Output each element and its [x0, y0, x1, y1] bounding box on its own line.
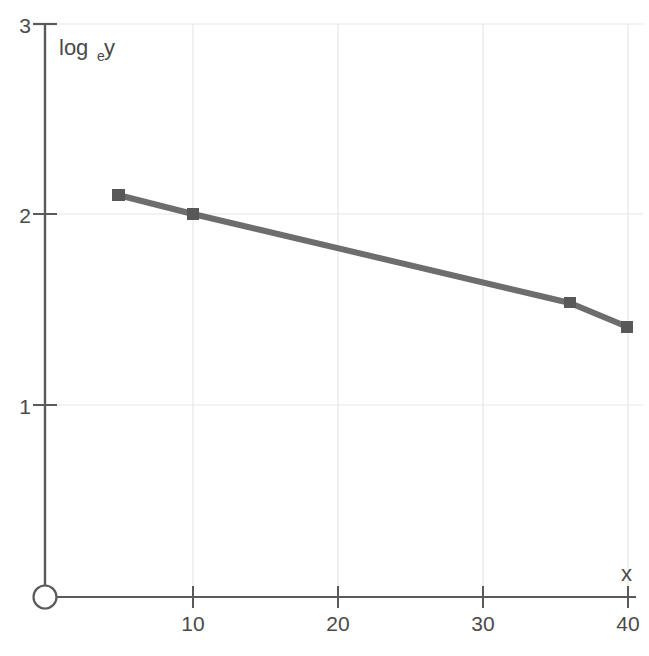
- data-point-marker: [112, 189, 125, 201]
- data-point-marker: [187, 208, 199, 220]
- x-tick-label-40: 40: [616, 612, 639, 635]
- chart-container: 3 2 1 10 20 30 40 log e y x: [0, 0, 649, 656]
- semilog-plot: 3 2 1 10 20 30 40 log e y x: [0, 0, 649, 656]
- y-axis-label-base: log: [59, 35, 88, 60]
- y-tick-label-1: 1: [19, 395, 31, 418]
- y-tick-label-2: 2: [19, 204, 31, 227]
- x-tick-label-30: 30: [471, 612, 494, 635]
- y-axis-label-variable: y: [104, 35, 115, 60]
- plot-background: [0, 0, 649, 656]
- x-axis-label: x: [621, 561, 632, 586]
- y-tick-label-3: 3: [19, 14, 31, 37]
- data-point-marker: [621, 321, 633, 333]
- x-tick-label-20: 20: [326, 612, 349, 635]
- x-tick-label-10: 10: [181, 612, 204, 635]
- data-point-marker: [564, 297, 576, 308]
